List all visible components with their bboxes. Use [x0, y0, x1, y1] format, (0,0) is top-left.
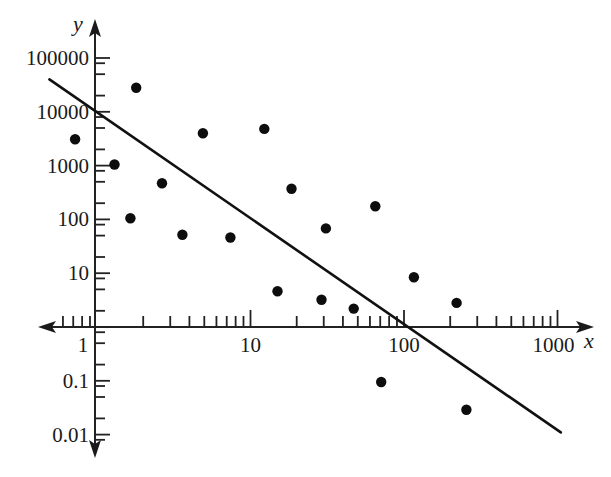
origin-tick-label: 1	[78, 333, 89, 357]
y-tick-label: 100000	[26, 46, 89, 70]
data-point	[286, 184, 296, 194]
data-point	[70, 134, 80, 144]
data-point	[198, 128, 208, 138]
x-axis-title: x	[583, 328, 594, 353]
x-tick-label: 100	[388, 333, 420, 357]
y-tick-label: 0.01	[52, 423, 89, 447]
data-point	[321, 223, 331, 233]
data-point	[272, 286, 282, 296]
y-axis-tick-labels: 100000100001000100100.10.01	[26, 46, 89, 447]
data-point	[376, 377, 386, 387]
data-point	[131, 83, 141, 93]
x-axis-tick-labels: 1101001000	[78, 333, 575, 357]
y-tick-label: 100	[58, 207, 90, 231]
y-tick-label: 0.1	[63, 369, 89, 393]
data-point	[225, 232, 235, 242]
y-tick-label: 1000	[47, 154, 89, 178]
y-tick-label: 10000	[37, 100, 90, 124]
data-point	[259, 124, 269, 134]
fitted-trend-line	[49, 79, 560, 432]
plot-area: 1101001000 100000100001000100100.10.01 y…	[0, 0, 611, 477]
data-point	[316, 295, 326, 305]
data-point	[177, 230, 187, 240]
data-point	[125, 213, 135, 223]
x-axis-ticks	[63, 310, 558, 327]
y-axis-title: y	[71, 11, 83, 36]
log-log-scatter-chart: 1101001000 100000100001000100100.10.01 y…	[0, 0, 611, 477]
y-tick-label: 10	[68, 261, 89, 285]
x-tick-label: 10	[240, 333, 261, 357]
data-point	[109, 159, 119, 169]
data-point	[349, 303, 359, 313]
data-point	[370, 201, 380, 211]
data-point	[461, 405, 471, 415]
data-point	[451, 298, 461, 308]
scatter-series	[70, 83, 472, 415]
axes	[38, 19, 594, 458]
x-tick-label: 1000	[533, 333, 575, 357]
data-point	[409, 272, 419, 282]
data-point	[157, 178, 167, 188]
fitted-line-series	[49, 79, 560, 432]
